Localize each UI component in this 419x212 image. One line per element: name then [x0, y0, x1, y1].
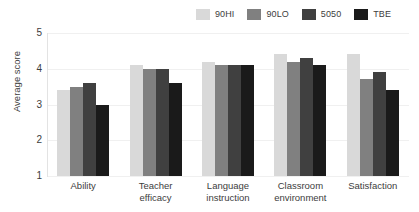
bar-group: [337, 33, 409, 176]
y-tick-5: 5: [26, 28, 42, 38]
bar-90hi[interactable]: [202, 62, 215, 176]
bar-90lo[interactable]: [143, 69, 156, 176]
x-axis-category-labels: AbilityTeacher efficacyLanguage instruct…: [47, 180, 409, 210]
chart-legend: 90HI90LO5050TBE: [196, 7, 411, 21]
legend-item-tbe[interactable]: TBE: [354, 9, 391, 20]
bar-tbe[interactable]: [241, 65, 254, 176]
bar-90hi[interactable]: [347, 54, 360, 176]
y-tick-1: 1: [26, 171, 42, 181]
y-tick-4: 4: [26, 64, 42, 74]
bar-tbe[interactable]: [169, 83, 182, 176]
bar-90hi[interactable]: [274, 54, 287, 176]
legend-item-90lo[interactable]: 90LO: [247, 9, 288, 20]
y-axis-tick-labels: 54321: [22, 33, 42, 176]
legend-swatch-icon: [354, 9, 368, 20]
legend-swatch-icon: [247, 9, 261, 20]
y-axis-title: Average score: [11, 32, 22, 132]
bar-5050[interactable]: [300, 58, 313, 176]
x-label-ability: Ability: [47, 180, 119, 192]
legend-item-label: 90LO: [266, 9, 288, 20]
legend-item-90hi[interactable]: 90HI: [196, 9, 234, 20]
bar-90lo[interactable]: [215, 65, 228, 176]
bars-layer: [47, 33, 409, 176]
y-tick-2: 2: [26, 135, 42, 145]
bar-group: [119, 33, 191, 176]
bar-tbe[interactable]: [96, 105, 109, 177]
bar-5050[interactable]: [228, 65, 241, 176]
bar-chart: 90HI90LO5050TBE Average score 54321 Abil…: [0, 0, 419, 212]
bar-5050[interactable]: [83, 83, 96, 176]
legend-item-5050[interactable]: 5050: [302, 9, 341, 20]
x-label-language-instruction: Language instruction: [192, 180, 264, 203]
legend-swatch-icon: [196, 9, 210, 20]
legend-item-label: 5050: [321, 9, 341, 20]
gridline: [47, 176, 409, 177]
bar-90hi[interactable]: [130, 65, 143, 176]
x-label-classroom-environment: Classroom environment: [264, 180, 336, 203]
y-tick-3: 3: [26, 100, 42, 110]
bar-5050[interactable]: [373, 72, 386, 176]
legend-item-label: TBE: [373, 9, 391, 20]
bar-90lo[interactable]: [70, 87, 83, 176]
bar-5050[interactable]: [156, 69, 169, 176]
bar-group: [264, 33, 336, 176]
legend-swatch-icon: [302, 9, 316, 20]
bar-group: [47, 33, 119, 176]
bar-90lo[interactable]: [287, 62, 300, 176]
x-label-satisfaction: Satisfaction: [337, 180, 409, 192]
bar-90lo[interactable]: [360, 79, 373, 176]
bar-tbe[interactable]: [313, 65, 326, 176]
bar-group: [192, 33, 264, 176]
bar-90hi[interactable]: [57, 90, 70, 176]
bar-tbe[interactable]: [386, 90, 399, 176]
x-label-teacher-efficacy: Teacher efficacy: [119, 180, 191, 203]
legend-item-label: 90HI: [215, 9, 234, 20]
